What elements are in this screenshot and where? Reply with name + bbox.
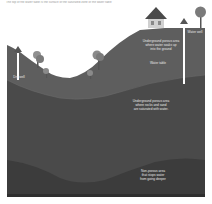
label-unsaturated-zone: Underground porous area where water soak…	[140, 40, 182, 51]
groundwater-cross-section	[0, 0, 212, 204]
bottom-border	[7, 194, 205, 197]
label-dry-well: Dry well	[8, 76, 30, 80]
label-non-porous-zone: Non-porous area that stops water from go…	[135, 170, 171, 181]
non-porous-line-3: from going deeper	[135, 178, 171, 182]
label-water-well: Water well	[182, 31, 208, 35]
house-icon	[145, 7, 167, 28]
unsaturated-line-3: into the ground	[140, 48, 182, 52]
saturated-line-3: are saturated with water.	[128, 108, 174, 112]
label-water-table: Water table	[145, 62, 171, 66]
tree-icon-right	[195, 7, 206, 29]
label-saturated-zone: Underground porous area where rocks and …	[128, 100, 174, 111]
